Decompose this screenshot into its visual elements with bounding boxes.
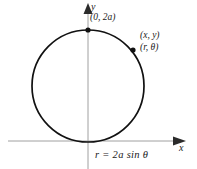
x-axis-label: x (179, 143, 183, 153)
point-marker-general (130, 47, 135, 52)
point-label-top: (0, 2a) (90, 13, 115, 23)
y-axis-label: y (91, 2, 95, 12)
polar-circle-figure: y x (0, 2a) (x, y) (r, θ) r = 2a sin θ (0, 0, 197, 169)
figure-canvas (0, 0, 197, 169)
point-label-cartesian: (x, y) (140, 31, 160, 41)
point-marker-top (85, 27, 90, 32)
point-label-polar: (r, θ) (140, 43, 158, 53)
equation-label: r = 2a sin θ (95, 150, 148, 161)
